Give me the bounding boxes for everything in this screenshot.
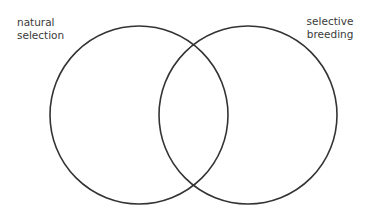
- selective-breeding-circle: [159, 26, 337, 204]
- label-line: natural: [17, 16, 64, 29]
- label-line: breeding: [307, 28, 354, 41]
- label-line: selection: [17, 29, 64, 42]
- selective-breeding-label: selective breeding: [307, 15, 354, 40]
- label-line: selective: [307, 15, 354, 28]
- natural-selection-label: natural selection: [17, 16, 64, 41]
- natural-selection-circle: [50, 26, 228, 204]
